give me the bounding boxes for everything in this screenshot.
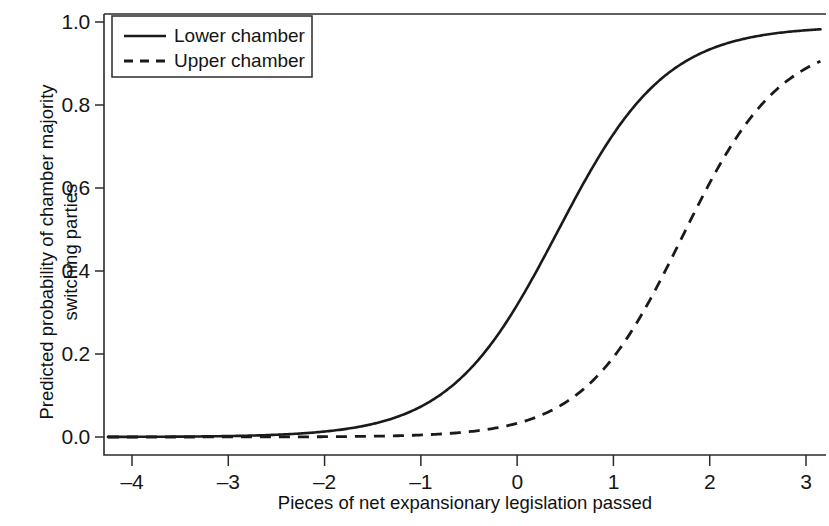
axis-frame <box>104 14 826 455</box>
y-axis-ticks <box>95 22 104 437</box>
y-axis-title-line2: switching parties <box>59 37 83 467</box>
plot-area <box>0 0 829 526</box>
x-tick-label: –3 <box>217 470 240 494</box>
x-tick-label: 0 <box>511 470 522 494</box>
x-tick-label: 1 <box>608 470 619 494</box>
y-axis-title-line1: Predicted probability of chamber majorit… <box>35 37 59 467</box>
legend-label-upper-chamber: Upper chamber <box>174 50 305 72</box>
x-axis-title: Pieces of net expansionary legislation p… <box>104 492 826 514</box>
x-tick-label: –2 <box>313 470 336 494</box>
chart-figure: Lower chamber Upper chamber 0.00.20.40.6… <box>0 0 829 526</box>
series-line-upper-chamber <box>108 61 821 437</box>
legend-label-lower-chamber: Lower chamber <box>174 25 305 47</box>
y-axis-title: Predicted probability of chamber majorit… <box>35 37 83 467</box>
x-tick-label: –1 <box>409 470 432 494</box>
x-tick-label: –4 <box>121 470 144 494</box>
x-tick-label: 2 <box>704 470 715 494</box>
y-tick-label: 1.0 <box>24 10 90 34</box>
series-line-lower-chamber <box>108 29 821 437</box>
x-axis-ticks <box>132 455 806 466</box>
x-tick-label: 3 <box>800 470 811 494</box>
